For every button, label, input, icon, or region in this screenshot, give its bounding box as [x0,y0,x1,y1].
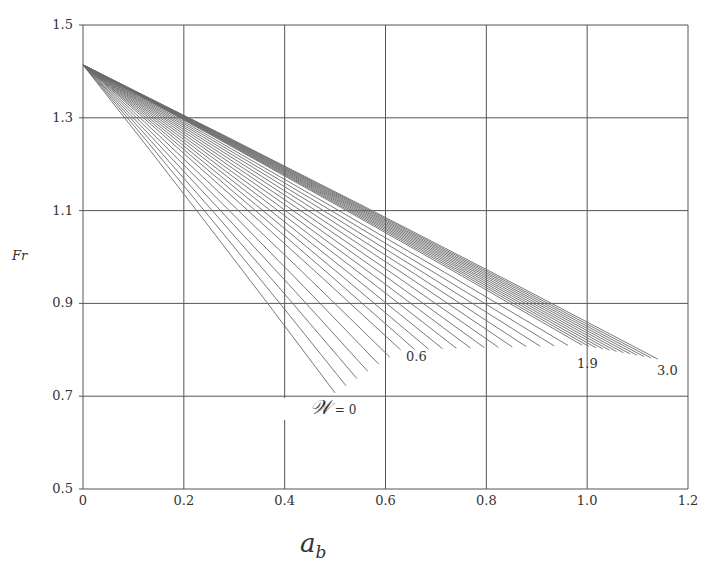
x-tick-label: 1.0 [577,493,598,508]
annotation-3-0: 3.0 [657,363,678,378]
x-axis-label-main: a [300,528,316,558]
y-tick-label: 1.5 [52,17,73,32]
x-tick-label: 0.8 [476,493,497,508]
y-tick-label: 0.7 [52,388,73,403]
x-axis-label-sub: b [316,542,327,562]
y-axis-label: Fr [11,248,28,263]
grid-lines [79,25,688,489]
x-tick-label: 0.2 [173,493,194,508]
annotation-1-9: 1.9 [577,356,598,371]
chart: 00.20.40.60.81.01.20.50.70.91.11.31.5 Fr… [0,0,710,565]
x-tick-label: 1.2 [678,493,699,508]
annotation-w0: 𝒲 = 0 [310,395,356,419]
curve [83,65,335,393]
curve [83,65,379,364]
curve-family [83,65,658,393]
y-tick-label: 0.9 [52,295,73,310]
y-tick-label: 1.3 [52,110,73,125]
y-tick-label: 1.1 [52,203,73,218]
x-tick-label: 0.4 [274,493,295,508]
y-tick-label: 0.5 [52,481,73,496]
curve [83,65,357,379]
x-tick-label: 0.6 [375,493,396,508]
x-axis-label: ab [300,528,326,562]
tick-labels: 00.20.40.60.81.01.20.50.70.91.11.31.5 [52,17,698,508]
w-eq: = 0 [331,403,356,417]
x-tick-label: 0 [79,493,87,508]
annotation-0-6: 0.6 [406,349,427,364]
curve [83,65,346,386]
curve [83,65,429,349]
curve [83,65,368,371]
